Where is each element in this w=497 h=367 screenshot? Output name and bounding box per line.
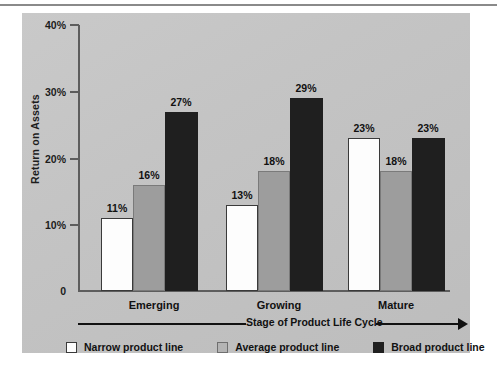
bar-emerging-broad[interactable] — [165, 112, 198, 291]
y-tick-label-10: 10% — [22, 219, 66, 231]
bar-growing-average[interactable] — [258, 171, 290, 291]
x-axis-title: Stage of Product Life Cycle — [246, 316, 376, 328]
legend-label-narrow: Narrow product line — [84, 341, 183, 353]
bar-emerging-narrow[interactable] — [101, 218, 133, 291]
chart-figure: Return on Assets 40% 30% 20% 10% 0 11% 1… — [22, 13, 470, 353]
bar-emerging-average[interactable] — [133, 185, 165, 291]
top-divider-rule — [0, 4, 497, 6]
legend-swatch-average-icon — [217, 342, 228, 353]
legend: Narrow product line Average product line… — [66, 338, 466, 356]
bar-value-mature-narrow: 23% — [338, 122, 390, 134]
legend-swatch-narrow-icon — [66, 342, 77, 353]
bar-value-emerging-broad: 27% — [155, 96, 207, 108]
y-tick-40 — [70, 24, 79, 26]
arrow-head-icon — [458, 318, 468, 330]
bar-mature-broad[interactable] — [412, 138, 445, 291]
x-axis-title-band: Stage of Product Life Cycle — [78, 316, 468, 332]
x-axis-arrow-line-right — [376, 323, 460, 325]
legend-item-broad[interactable]: Broad product line — [373, 341, 484, 353]
x-category-label-emerging: Emerging — [109, 299, 199, 311]
y-tick-10 — [70, 224, 79, 226]
legend-swatch-broad-icon — [373, 342, 384, 353]
legend-item-average[interactable]: Average product line — [217, 341, 339, 353]
y-tick-label-40: 40% — [22, 19, 66, 31]
x-axis-arrow-line-left — [78, 323, 246, 325]
legend-item-narrow[interactable]: Narrow product line — [66, 341, 183, 353]
y-tick-label-20: 20% — [22, 153, 66, 165]
y-tick-20 — [70, 158, 79, 160]
bar-growing-broad[interactable] — [290, 98, 323, 291]
legend-label-average: Average product line — [235, 341, 339, 353]
plot-area: Return on Assets 40% 30% 20% 10% 0 11% 1… — [22, 13, 470, 353]
y-tick-30 — [70, 91, 79, 93]
x-category-label-mature: Mature — [351, 299, 441, 311]
bar-value-growing-broad: 29% — [280, 82, 332, 94]
bar-mature-average[interactable] — [380, 171, 412, 291]
bar-growing-narrow[interactable] — [226, 205, 258, 291]
y-tick-label-0: 0 — [22, 285, 66, 297]
y-tick-label-30: 30% — [22, 86, 66, 98]
legend-label-broad: Broad product line — [391, 341, 484, 353]
x-category-label-growing: Growing — [234, 299, 324, 311]
bar-value-mature-broad: 23% — [402, 122, 454, 134]
